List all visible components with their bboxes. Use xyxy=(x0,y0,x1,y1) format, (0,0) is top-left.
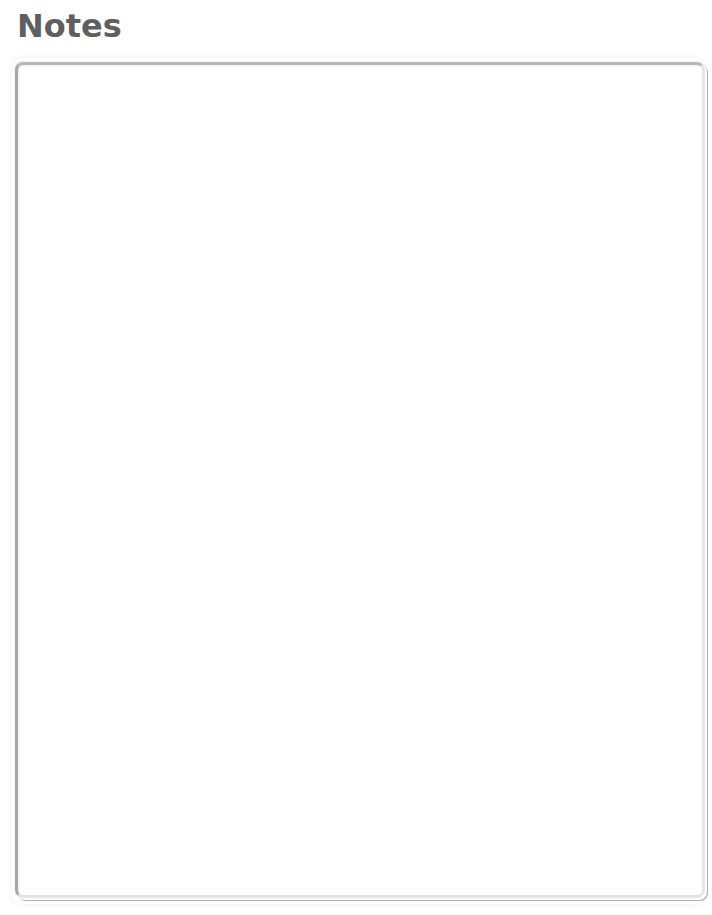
notes-textarea[interactable] xyxy=(15,62,705,898)
page-title: Notes xyxy=(17,4,122,48)
